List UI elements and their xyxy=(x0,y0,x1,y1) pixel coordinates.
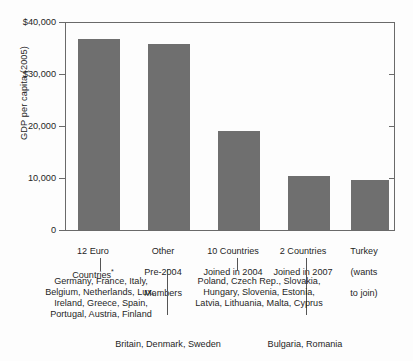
bar-other-pre-2004 xyxy=(148,44,190,230)
bar-turkey xyxy=(351,180,389,230)
leader-line-2004 xyxy=(237,258,238,271)
y-axis-title: GDP per capita (2005) xyxy=(19,13,29,173)
cat0-line1: 12 Euro xyxy=(77,246,109,256)
y-tick-mark-20000 xyxy=(59,126,65,127)
leader-line-12-euro xyxy=(100,258,101,271)
y-tick-label-0: 0 xyxy=(0,225,56,235)
footnote-asterisk: * xyxy=(111,268,114,275)
y-tick-label-30000: $30,000 xyxy=(0,69,56,79)
y-tick-label-20000: 20,000 xyxy=(0,121,56,131)
bar-10-countries-2004 xyxy=(218,131,260,230)
cat1-line1: Other xyxy=(152,246,175,256)
cat4-line3: to join) xyxy=(350,288,377,298)
y-tick-mark-40000 xyxy=(59,22,65,23)
gdp-per-capita-bar-chart: GDP per capita (2005) $40,000 $30,000 20… xyxy=(0,0,413,361)
cat2-line1: 10 Countries xyxy=(207,246,259,256)
cat4-line1: Turkey xyxy=(350,246,377,256)
y-tick-mark-10000 xyxy=(59,178,65,179)
x-category-label-2-countries-2007: 2 Countries Joined in 2007 xyxy=(262,235,344,277)
y-tick-mark-0 xyxy=(59,230,65,231)
note-pre-2004-countries: Britain, Denmark, Sweden xyxy=(104,339,232,350)
bars-layer xyxy=(66,22,395,230)
cat3-line1: 2 Countries xyxy=(280,246,327,256)
x-axis-line xyxy=(65,230,395,231)
note-euro-12-countries: Germany, France, Italy, Belgium, Netherl… xyxy=(30,276,172,320)
bar-12-euro-countries xyxy=(78,39,120,230)
x-category-label-12-euro: 12 Euro Countries* xyxy=(62,235,124,280)
note-joined-2004-countries: Poland, Czech Rep., Slovakia, Hungary, S… xyxy=(178,276,340,309)
note-joined-2007-countries: Bulgaria, Romania xyxy=(240,339,370,350)
bar-2-countries-2007 xyxy=(288,176,330,230)
y-tick-label-10000: 10,000 xyxy=(0,173,56,183)
y-tick-mark-30000 xyxy=(59,74,65,75)
x-category-label-turkey: Turkey (wants to join) xyxy=(336,235,392,299)
cat4-line2: (wants xyxy=(351,267,378,277)
y-tick-label-40000: $40,000 xyxy=(0,17,56,27)
